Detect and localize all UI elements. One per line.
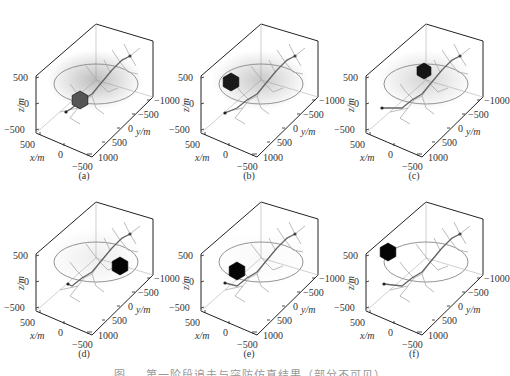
y-axis-label: y/m	[136, 305, 150, 315]
x-tick-label: 0	[58, 328, 63, 338]
plot-3d	[330, 178, 497, 356]
y-tick-label: 500	[277, 138, 292, 148]
y-tick-label: 1000	[263, 331, 283, 341]
x-axis-label: x/m	[195, 331, 209, 341]
x-axis-label: x/m	[195, 153, 209, 163]
z-axis-label: z/m	[346, 98, 356, 112]
y-tick-label: 0	[293, 302, 298, 312]
y-tick-label: 500	[442, 138, 457, 148]
z-axis-label: z/m	[181, 98, 191, 112]
plot-3d	[165, 0, 332, 178]
panel-a: 5000−500z/m5000−500x/m−1000−50005001000y…	[0, 0, 167, 178]
y-tick-label: 500	[112, 316, 127, 326]
x-axis-label: x/m	[30, 331, 44, 341]
x-tick-label: 0	[388, 328, 393, 338]
x-tick-label: 0	[223, 328, 228, 338]
panel-e: 5000−500z/m5000−500x/m−1000−50005001000y…	[165, 178, 332, 356]
z-axis-label: z/m	[16, 276, 26, 290]
y-tick-label: −500	[303, 110, 324, 120]
x-axis-label: x/m	[30, 153, 44, 163]
panel-f: 5000−500z/m5000−500x/m−1000−50005001000y…	[330, 178, 497, 356]
y-tick-label: 1000	[98, 153, 118, 163]
y-tick-label: 0	[128, 302, 133, 312]
y-tick-label: −500	[138, 110, 159, 120]
x-tick-label: 500	[185, 140, 200, 150]
z-tick-label: 500	[178, 73, 193, 83]
y-tick-label: 0	[293, 124, 298, 134]
x-tick-label: 0	[388, 150, 393, 160]
y-tick-label: −1000	[484, 274, 510, 284]
panel-caption: (f)	[394, 348, 434, 359]
figure-caption: 图 … 第一阶段追击与突防仿真结果（部分不可见）	[110, 366, 390, 376]
z-axis-label: z/m	[181, 276, 191, 290]
z-tick-label: −500	[169, 125, 190, 135]
x-tick-label: 500	[20, 318, 35, 328]
x-tick-label: 500	[185, 318, 200, 328]
plot-3d	[165, 178, 332, 356]
y-tick-label: 1000	[428, 331, 448, 341]
y-tick-label: 0	[128, 124, 133, 134]
z-axis-label: z/m	[346, 276, 356, 290]
y-axis-label: y/m	[301, 305, 315, 315]
plot-3d	[0, 178, 167, 356]
z-axis-label: z/m	[16, 98, 26, 112]
y-tick-label: −500	[468, 110, 489, 120]
y-axis-label: y/m	[301, 127, 315, 137]
z-tick-label: 500	[13, 251, 28, 261]
y-tick-label: 0	[458, 302, 463, 312]
panel-caption: (d)	[64, 348, 104, 359]
y-tick-label: 1000	[428, 153, 448, 163]
y-tick-label: 1000	[263, 153, 283, 163]
panel-caption: (e)	[229, 348, 269, 359]
z-tick-label: −500	[4, 303, 25, 313]
z-tick-label: −500	[334, 303, 355, 313]
y-tick-label: −500	[468, 288, 489, 298]
plot-3d	[330, 0, 497, 178]
y-tick-label: 1000	[98, 331, 118, 341]
x-tick-label: 0	[58, 150, 63, 160]
target-cube	[380, 243, 396, 261]
y-tick-label: 500	[277, 316, 292, 326]
x-tick-label: 500	[350, 318, 365, 328]
y-tick-label: −1000	[484, 96, 510, 106]
panel-d: 5000−500z/m5000−500x/m−1000−50005001000y…	[0, 178, 167, 356]
z-tick-label: 500	[343, 73, 358, 83]
z-tick-label: −500	[4, 125, 25, 135]
y-tick-label: 500	[442, 316, 457, 326]
y-tick-label: −500	[138, 288, 159, 298]
z-tick-label: 500	[13, 73, 28, 83]
panel-c: 5000−500z/m5000−500x/m−1000−50005001000y…	[330, 0, 497, 178]
y-axis-label: y/m	[136, 127, 150, 137]
z-tick-label: 500	[343, 251, 358, 261]
y-axis-label: y/m	[466, 305, 480, 315]
panel-b: 5000−500z/m5000−500x/m−1000−50005001000y…	[165, 0, 332, 178]
z-tick-label: −500	[334, 125, 355, 135]
plot-3d	[0, 0, 167, 178]
y-tick-label: 0	[458, 124, 463, 134]
x-axis-label: x/m	[360, 331, 374, 341]
x-axis-label: x/m	[360, 153, 374, 163]
x-tick-label: 500	[20, 140, 35, 150]
z-tick-label: 500	[178, 251, 193, 261]
x-tick-label: 500	[350, 140, 365, 150]
y-tick-label: 500	[112, 138, 127, 148]
y-tick-label: −500	[303, 288, 324, 298]
z-tick-label: −500	[169, 303, 190, 313]
x-tick-label: 0	[223, 150, 228, 160]
y-axis-label: y/m	[466, 127, 480, 137]
